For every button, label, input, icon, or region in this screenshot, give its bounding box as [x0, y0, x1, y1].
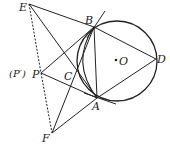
dashed-ep	[29, 4, 41, 73]
label-p-prime: (P′)	[9, 68, 26, 79]
label-b: B	[84, 14, 93, 27]
segment-pb	[41, 27, 94, 73]
label-p: P	[31, 68, 40, 81]
center-dot-o	[115, 59, 118, 62]
dashed-pf	[41, 73, 52, 133]
segment-ba	[94, 27, 97, 98]
label-d: D	[156, 53, 166, 66]
geometry-diagram: E B D O C (P′) P A F	[0, 0, 170, 150]
circle-o	[77, 21, 157, 101]
label-f: F	[41, 132, 50, 145]
label-e: E	[18, 1, 27, 14]
label-a: A	[91, 100, 100, 113]
label-c: C	[64, 70, 73, 83]
label-o: O	[119, 55, 128, 68]
